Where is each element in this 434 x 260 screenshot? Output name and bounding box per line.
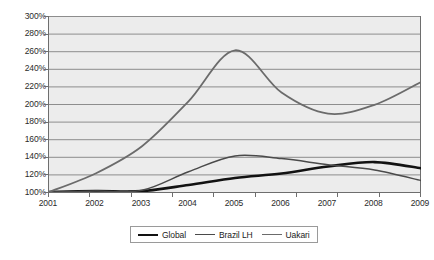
series-line-global [49,162,421,192]
legend-item-uakari[interactable]: Uakari [262,230,310,240]
plot-svg [49,16,421,192]
x-axis-tick-mark [48,193,49,197]
x-axis-tick-label: 2006 [261,198,301,208]
y-axis-tick-label: 260% [2,47,46,56]
y-axis-tick-label: 240% [2,64,46,73]
x-axis-tick-label: 2005 [214,198,254,208]
x-axis: 200120022003200420052006200720082009 [48,198,420,212]
x-axis-tick-label: 2007 [307,198,347,208]
x-axis-tick-label: 2009 [400,198,434,208]
plot-area [48,16,421,193]
x-axis-tick-mark [131,193,132,197]
legend-item-global[interactable]: Global [138,230,186,240]
legend-line-swatch [195,234,215,235]
series-line-brazil-lh [49,155,421,192]
legend-label: Uakari [286,230,310,240]
y-axis-tick-label: 160% [2,135,46,144]
y-axis-tick-label: 300% [2,12,46,21]
series-line-uakari [49,50,421,192]
x-axis-tick-mark [296,193,297,197]
legend-item-brazil-lh[interactable]: Brazil LH [195,230,253,240]
y-axis-tick-label: 100% [2,188,46,197]
line-chart: 300%280%260%240%220%200%180%160%140%120%… [0,0,434,260]
x-axis-tick-label: 2001 [28,198,68,208]
x-axis-tick-label: 2008 [354,198,394,208]
legend-label: Brazil LH [219,230,253,240]
y-axis-tick-label: 200% [2,100,46,109]
x-axis-tick-mark [89,193,90,197]
y-axis-tick-label: 280% [2,29,46,38]
x-axis-tick-label: 2004 [168,198,208,208]
y-axis-tick-label: 180% [2,117,46,126]
y-axis: 300%280%260%240%220%200%180%160%140%120%… [0,0,46,260]
legend-line-swatch [138,234,158,236]
series-lines [49,50,421,192]
x-axis-tick-mark [379,193,380,197]
chart-legend: GlobalBrazil LHUakari [130,226,318,243]
gridlines [49,16,421,192]
y-axis-tick-label: 120% [2,170,46,179]
x-axis-tick-label: 2002 [75,198,115,208]
legend-line-swatch [262,234,282,235]
x-axis-tick-mark [420,193,421,197]
x-axis-tick-mark [337,193,338,197]
y-axis-tick-label: 140% [2,152,46,161]
x-axis-tick-mark [213,193,214,197]
y-axis-tick-label: 220% [2,82,46,91]
x-axis-tick-mark [172,193,173,197]
x-axis-tick-label: 2003 [121,198,161,208]
legend-label: Global [162,230,186,240]
x-axis-tick-mark [255,193,256,197]
